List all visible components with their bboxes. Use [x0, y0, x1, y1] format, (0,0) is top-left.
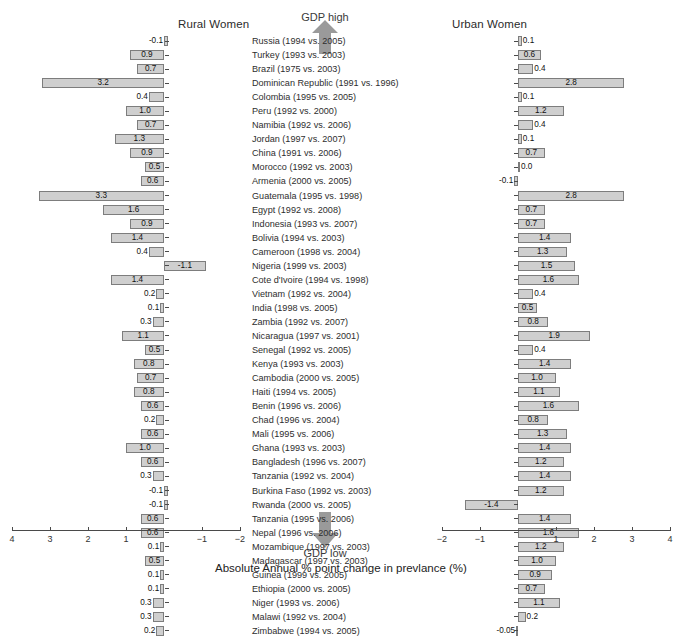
- bar-rural: -1.1: [164, 261, 206, 271]
- bar-group-rural: -0.1: [12, 484, 240, 498]
- bar-rural: 0.6: [141, 514, 164, 524]
- axis-tick: [126, 527, 127, 531]
- bar-rural: 0.9: [130, 219, 164, 229]
- bar-group-urban: 1.9: [442, 329, 670, 343]
- bar-value-urban: 0.7: [519, 219, 544, 229]
- bar-rural: 1.4: [111, 233, 164, 243]
- bar-urban: 1.3: [518, 247, 567, 257]
- country-label: Nigeria (1999 vs. 2003): [252, 259, 430, 273]
- bar-urban: 1.4: [518, 443, 571, 453]
- bar-value-urban: 0.4: [532, 289, 560, 299]
- bar-group-urban: 1.0: [442, 371, 670, 385]
- bar-group-rural: 3.2: [12, 76, 240, 90]
- bar-rural: 1.4: [111, 275, 164, 285]
- axis-tick: [442, 527, 443, 531]
- bar-value-rural: -0.1: [137, 486, 165, 496]
- bar-value-urban: 1.6: [519, 275, 578, 285]
- bar-urban: 1.6: [518, 275, 579, 285]
- axis-tick-label: 3: [629, 534, 634, 544]
- bar-urban: 1.9: [518, 331, 590, 341]
- bar-group-urban: 0.7: [442, 203, 670, 217]
- bar-group-urban: 0.7: [442, 582, 670, 596]
- bar-group-urban: 2.8: [442, 76, 670, 90]
- country-label: Senegal (1992 vs. 2005): [252, 343, 430, 357]
- bar-value-rural: 0.2: [129, 415, 157, 425]
- chart-row: 0.6Mali (1995 vs. 2006)1.3: [0, 427, 682, 441]
- chart-row: 0.2Chad (1996 vs. 2004)0.8: [0, 413, 682, 427]
- row-tick-urban: [514, 195, 518, 196]
- bar-value-rural: 0.6: [142, 514, 163, 524]
- bar-group-urban: 1.1: [442, 596, 670, 610]
- bar-group-urban: 1.6: [442, 399, 670, 413]
- bar-group-rural: 1.6: [12, 203, 240, 217]
- row-tick-rural: [165, 448, 169, 449]
- chart-row: 0.1Ethiopia (2000 vs. 2005)0.7: [0, 582, 682, 596]
- bar-value-urban: -0.05: [489, 626, 517, 636]
- row-tick-urban: [514, 251, 518, 252]
- bar-group-urban: 1.5: [442, 259, 670, 273]
- bar-urban: 1.2: [518, 486, 564, 496]
- bar-value-rural: 0.6: [142, 176, 163, 186]
- chart-row: -0.1Russia (1994 vs. 2005)0.1: [0, 34, 682, 48]
- bar-value-rural: 1.4: [112, 233, 163, 243]
- bar-value-rural: 0.1: [133, 303, 161, 313]
- row-tick-rural: [165, 55, 169, 56]
- bar-value-rural: 0.8: [135, 359, 163, 369]
- bar-group-urban: 0.4: [442, 62, 670, 76]
- bar-value-urban: 1.4: [519, 359, 570, 369]
- chart-row: 0.4Colombia (1995 vs. 2005)0.1: [0, 90, 682, 104]
- country-label: Jordan (1997 vs. 2007): [252, 132, 430, 146]
- bar-rural: 0.8: [134, 359, 164, 369]
- bar-rural: 3.2: [42, 78, 164, 88]
- bar-group-rural: 0.9: [12, 146, 240, 160]
- chart-row: 0.3Niger (1993 vs. 2006)1.1: [0, 596, 682, 610]
- bar-rural: 0.9: [130, 148, 164, 158]
- chart-row: 0.7Cambodia (2000 vs. 2005)1.0: [0, 371, 682, 385]
- chart-row: 0.6Tanzania (1995 vs. 2006)1.4: [0, 512, 682, 526]
- bar-value-urban: 0.7: [519, 584, 544, 594]
- axis-tick: [594, 527, 595, 531]
- bar-rural: 0.6: [141, 429, 164, 439]
- chart-row: 0.6Bangladesh (1996 vs. 2007)1.2: [0, 455, 682, 469]
- bar-group-rural: 1.0: [12, 104, 240, 118]
- row-tick-urban: [514, 111, 518, 112]
- axis-tick: [202, 527, 203, 531]
- bar-group-rural: 3.3: [12, 189, 240, 203]
- bar-value-rural: 0.3: [126, 471, 154, 481]
- bar-value-urban: 0.6: [519, 50, 540, 60]
- bar-urban: 0.1: [518, 134, 522, 144]
- bar-group-urban: 1.3: [442, 245, 670, 259]
- country-label: Indonesia (1993 vs. 2007): [252, 217, 430, 231]
- bar-urban: 1.4: [518, 233, 571, 243]
- x-axis-caption: Absolute Annual % point change in prevla…: [0, 562, 682, 574]
- row-tick-rural: [165, 209, 169, 210]
- bar-group-urban: 1.2: [442, 104, 670, 118]
- bar-value-urban: 0.8: [519, 317, 547, 327]
- bar-value-urban: 0.1: [521, 134, 549, 144]
- chart-row: 1.3Jordan (1997 vs. 2007)0.1: [0, 132, 682, 146]
- bar-group-rural: 1.0: [12, 441, 240, 455]
- axis-tick-label: −1: [197, 534, 207, 544]
- bar-value-urban: 1.6: [519, 401, 578, 411]
- row-tick-urban: [514, 55, 518, 56]
- axis-tick: [556, 527, 557, 531]
- row-tick-rural: [165, 223, 169, 224]
- country-label: Morocco (1992 vs. 2003): [252, 160, 430, 174]
- bar-group-urban: 0.7: [442, 146, 670, 160]
- bar-group-urban: 1.4: [442, 469, 670, 483]
- country-label: Nepal (1996 vs. 2006): [252, 526, 430, 540]
- bar-value-rural: 0.3: [126, 612, 154, 622]
- bar-group-rural: 0.9: [12, 48, 240, 62]
- axis-tick: [240, 527, 241, 531]
- row-tick-urban: [514, 223, 518, 224]
- country-label: Tanzania (1992 vs. 2004): [252, 469, 430, 483]
- country-label: Chad (1996 vs. 2004): [252, 413, 430, 427]
- bar-group-urban: 0.1: [442, 132, 670, 146]
- bar-rural: 0.5: [145, 345, 164, 355]
- row-tick-urban: [514, 279, 518, 280]
- row-tick-urban: [514, 574, 518, 575]
- bar-value-urban: 1.4: [519, 443, 570, 453]
- bar-value-urban: 1.4: [519, 471, 570, 481]
- bar-value-urban: 0.8: [519, 415, 547, 425]
